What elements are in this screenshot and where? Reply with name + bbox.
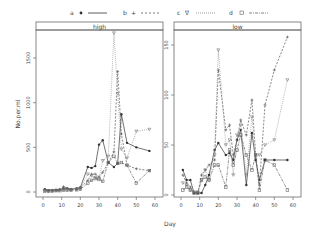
marker-a	[189, 179, 191, 181]
x-tick-label: 20	[215, 202, 221, 208]
marker-c	[86, 173, 89, 176]
marker-a	[273, 159, 275, 161]
marker-a	[217, 142, 219, 144]
x-tick-label: 20	[77, 202, 83, 208]
plot-area-low	[174, 30, 301, 197]
marker-a	[90, 167, 92, 169]
legend-marker-a	[80, 12, 83, 15]
marker-a	[135, 146, 137, 148]
series-low	[181, 36, 289, 195]
marker-a	[126, 142, 128, 144]
y-tick-label: 1000	[25, 96, 31, 109]
x-tick-label: 40	[252, 202, 258, 208]
x-tick-label: 50	[271, 202, 277, 208]
marker-a	[102, 139, 104, 141]
marker-a	[87, 166, 89, 168]
y-axis-label: No.per.ml	[14, 99, 22, 128]
strip-label-low: low	[232, 23, 242, 30]
x-tick-label: 40	[114, 202, 120, 208]
x-tick-label: 60	[152, 202, 158, 208]
x-tick-label: 30	[234, 202, 240, 208]
panel-low: low 0102030405060050100150	[163, 22, 301, 208]
marker-c	[258, 154, 261, 157]
marker-a	[251, 132, 253, 134]
legend-label-c: c	[177, 9, 180, 16]
series-line-c	[45, 33, 150, 191]
marker-d	[286, 189, 289, 192]
y-tick-label: 1500	[25, 52, 31, 65]
x-tick-label: 0	[179, 202, 182, 208]
marker-a	[185, 179, 187, 181]
marker-a	[120, 113, 122, 115]
legend-label-b: b	[123, 9, 127, 16]
x-tick-label: 10	[196, 202, 202, 208]
series-line-a	[183, 130, 288, 193]
legend-marker-b: +	[131, 9, 136, 16]
strip-label-high: high	[93, 23, 106, 31]
marker-a	[113, 166, 115, 168]
y-tick-label: 0	[25, 190, 31, 193]
x-axis-label: Day	[164, 220, 176, 228]
x-tick-label: 0	[41, 202, 44, 208]
legend-label-d: d	[229, 9, 233, 16]
legend-marker-d	[240, 11, 244, 15]
y-tick-label: 150	[163, 40, 169, 50]
marker-a	[94, 165, 96, 167]
x-tick-label: 30	[96, 202, 102, 208]
panel-high: high 0102030405060050010001500	[25, 22, 163, 208]
series-line-b	[183, 37, 288, 193]
y-tick-label: 0	[163, 193, 169, 196]
series-line-c	[183, 50, 288, 192]
marker-c	[273, 139, 276, 142]
chart: a b + c ∇ d high 01020304050600500100015…	[0, 0, 317, 237]
marker-c	[148, 128, 151, 131]
legend-label-a: a	[70, 9, 74, 16]
series-high	[43, 32, 151, 193]
marker-a	[204, 184, 206, 186]
x-tick-label: 50	[133, 202, 139, 208]
legend: a b + c ∇ d	[70, 9, 268, 16]
y-tick-label: 500	[25, 143, 31, 153]
plot-area-high	[36, 30, 163, 197]
legend-marker-c: ∇	[184, 9, 190, 16]
marker-a	[286, 159, 288, 161]
x-tick-label: 60	[290, 202, 296, 208]
x-tick-label: 10	[58, 202, 64, 208]
marker-a	[225, 154, 227, 156]
series-line-d	[183, 135, 288, 193]
marker-a	[245, 184, 247, 186]
marker-d	[120, 161, 123, 164]
series-line-d	[45, 156, 150, 191]
marker-a	[148, 150, 150, 152]
y-tick-label: 100	[163, 90, 169, 100]
y-tick-label: 50	[163, 142, 169, 148]
marker-c	[250, 116, 253, 119]
series-line-b	[45, 71, 150, 190]
marker-a	[200, 192, 202, 194]
marker-a	[182, 169, 184, 171]
marker-a	[98, 143, 100, 145]
